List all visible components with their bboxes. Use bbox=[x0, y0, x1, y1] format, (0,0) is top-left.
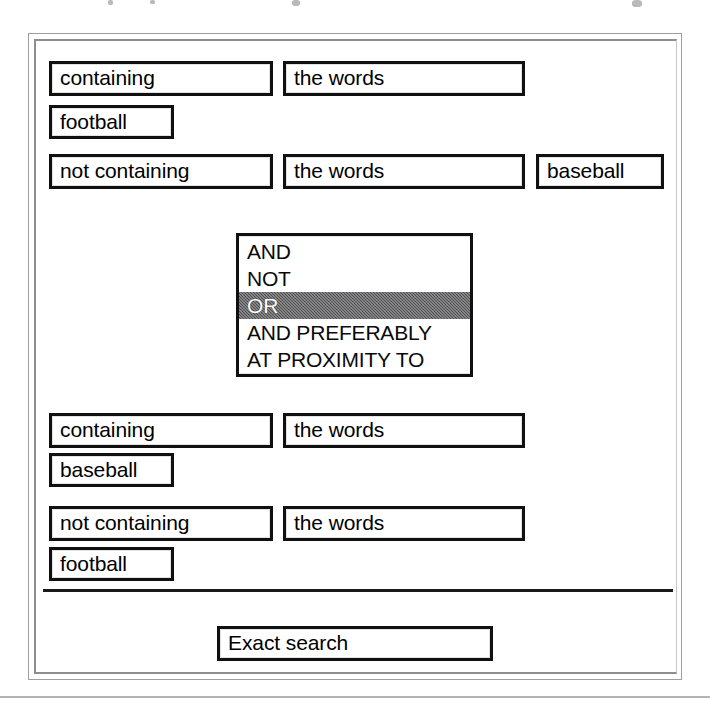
block1-row1-target-field[interactable]: the words bbox=[283, 61, 525, 96]
block2-row4-term-text: football bbox=[60, 553, 127, 574]
connector-option-and[interactable]: AND bbox=[239, 238, 470, 265]
block1-row1-operator-field[interactable]: containing bbox=[49, 61, 273, 96]
block1-row2-term-text: football bbox=[60, 111, 127, 132]
section-divider bbox=[43, 589, 673, 592]
block1-row2-term-field[interactable]: football bbox=[49, 105, 174, 139]
block1-row3-target-field[interactable]: the words bbox=[283, 154, 525, 189]
scan-artifacts bbox=[0, 0, 710, 14]
block2-row1-operator-field[interactable]: containing bbox=[49, 413, 273, 448]
block2-row1-target-text: the words bbox=[294, 419, 384, 440]
exact-search-button-label: Exact search bbox=[228, 632, 348, 653]
connector-option-not[interactable]: NOT bbox=[239, 265, 470, 292]
connector-operator-listbox[interactable]: AND NOT OR AND PREFERABLY AT PROXIMITY T… bbox=[236, 233, 473, 377]
block1-row3-term-text: baseball bbox=[547, 160, 624, 181]
block2-row3-target-text: the words bbox=[294, 512, 384, 533]
connector-option-or[interactable]: OR bbox=[239, 292, 470, 319]
connector-option-or-label: OR bbox=[247, 295, 278, 316]
exact-search-button[interactable]: Exact search bbox=[217, 626, 493, 661]
block2-row2-term-field[interactable]: baseball bbox=[49, 453, 174, 487]
block2-row3-target-field[interactable]: the words bbox=[283, 506, 525, 541]
block1-row3-operator-field[interactable]: not containing bbox=[49, 154, 273, 189]
form-panel: containing the words football not contai… bbox=[28, 33, 682, 680]
block2-row1-operator-text: containing bbox=[60, 419, 155, 440]
connector-option-not-label: NOT bbox=[247, 268, 291, 289]
connector-option-at-proximity-to-label: AT PROXIMITY TO bbox=[247, 349, 424, 370]
block1-row3-term-field[interactable]: baseball bbox=[536, 154, 664, 189]
connector-option-at-proximity-to[interactable]: AT PROXIMITY TO bbox=[239, 346, 470, 373]
connector-option-and-label: AND bbox=[247, 241, 291, 262]
block1-row1-operator-text: containing bbox=[60, 67, 155, 88]
page-bottom-rule bbox=[0, 696, 710, 698]
block2-row4-term-field[interactable]: football bbox=[49, 547, 174, 581]
block1-row3-target-text: the words bbox=[294, 160, 384, 181]
block1-row3-operator-text: not containing bbox=[60, 160, 189, 181]
connector-option-and-preferably[interactable]: AND PREFERABLY bbox=[239, 319, 470, 346]
block2-row2-term-text: baseball bbox=[60, 459, 137, 480]
block2-row3-operator-field[interactable]: not containing bbox=[49, 506, 273, 541]
block2-row3-operator-text: not containing bbox=[60, 512, 189, 533]
connector-option-and-preferably-label: AND PREFERABLY bbox=[247, 322, 432, 343]
block1-row1-target-text: the words bbox=[294, 67, 384, 88]
block2-row1-target-field[interactable]: the words bbox=[283, 413, 525, 448]
